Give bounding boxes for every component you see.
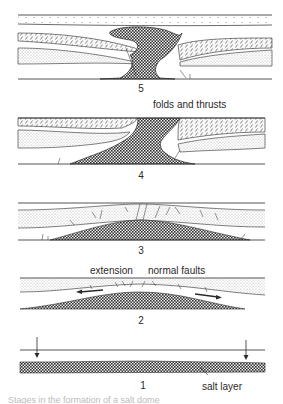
arrow-right-icon — [195, 294, 222, 300]
arrow-down-left-icon — [35, 337, 40, 358]
annotation-salt-layer: salt layer — [202, 381, 243, 392]
diagram-canvas: 5 folds and thrusts 4 3 — [0, 0, 283, 404]
panel-1-label: 1 — [140, 380, 146, 391]
panel-4: folds and thrusts 4 — [18, 99, 265, 181]
panel-3: 3 — [18, 203, 265, 256]
panel-3-label: 3 — [138, 245, 144, 256]
panel-5: 5 — [18, 15, 272, 94]
annotation-extension: extension — [90, 265, 133, 276]
arrow-left-icon — [76, 290, 103, 295]
panel-4-label: 4 — [138, 170, 144, 181]
annotation-folds-and-thrusts: folds and thrusts — [153, 99, 226, 110]
annotation-normal-faults: normal faults — [148, 265, 205, 276]
salt-layer — [20, 361, 265, 373]
panel-2-label: 2 — [138, 315, 144, 326]
panel-2: extension normal faults 2 — [20, 265, 265, 326]
panel-5-label: 5 — [138, 83, 144, 94]
figure-caption: Stages in the formation of a salt dome — [8, 396, 278, 404]
panel-1: 1 salt layer — [20, 337, 265, 392]
